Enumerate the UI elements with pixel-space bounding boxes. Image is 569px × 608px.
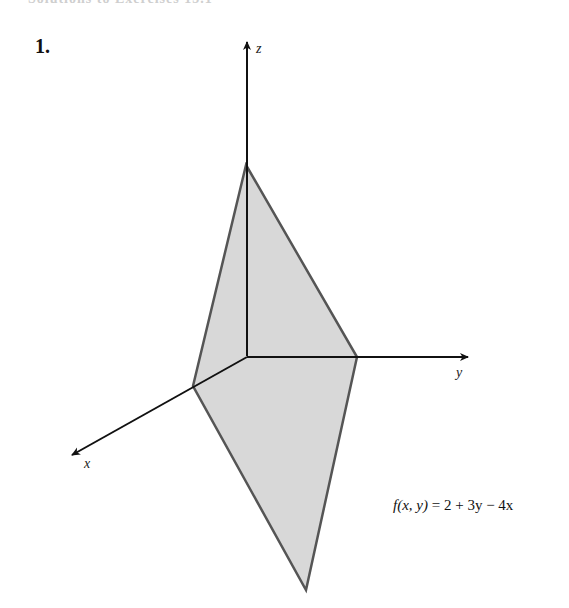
x-axis-label: x (83, 456, 91, 471)
formula-rhs: 2 + 3y − 4x (444, 497, 513, 513)
plane-surface (193, 165, 357, 590)
formula-equals: = (428, 497, 444, 513)
y-axis-label: y (454, 365, 463, 380)
plane-figure: z y x (0, 0, 569, 608)
z-axis-label: z (255, 41, 262, 56)
formula-arguments: (x, y) (397, 497, 428, 513)
function-formula: f(x, y) = 2 + 3y − 4x (393, 497, 513, 514)
